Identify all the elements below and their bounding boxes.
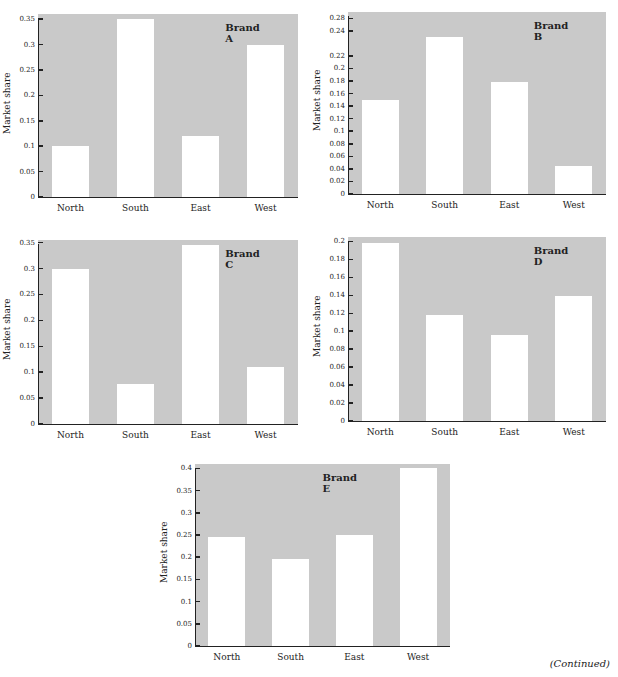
- chart-title: Brand C: [225, 248, 259, 270]
- y-tick: [348, 168, 353, 170]
- y-tick: [38, 242, 43, 244]
- y-tick-label: 0.22: [315, 52, 345, 60]
- y-tick: [348, 118, 353, 120]
- y-axis-label: Market share: [312, 69, 322, 131]
- y-tick-label: 0.1: [5, 368, 35, 376]
- y-axis-label: Market share: [2, 298, 12, 360]
- x-category-label: West: [236, 203, 296, 213]
- y-tick-label: 0.35: [162, 487, 192, 495]
- y-tick-label: 0.3: [162, 509, 192, 517]
- y-tick: [38, 268, 43, 270]
- y-tick: [38, 120, 43, 122]
- x-category-label: South: [261, 652, 321, 662]
- y-tick: [348, 68, 353, 70]
- bar-east: [182, 245, 220, 424]
- y-tick-label: 0: [5, 420, 35, 428]
- y-tick: [348, 80, 353, 82]
- y-tick: [195, 534, 200, 536]
- y-tick: [195, 556, 200, 558]
- y-tick: [348, 156, 353, 158]
- y-tick: [348, 143, 353, 145]
- x-category-label: West: [544, 427, 604, 437]
- y-tick: [38, 371, 43, 373]
- x-category-label: North: [197, 652, 257, 662]
- y-tick: [348, 366, 353, 368]
- y-tick: [348, 402, 353, 404]
- y-tick: [38, 171, 43, 173]
- bar-west: [247, 45, 285, 198]
- x-category-label: North: [350, 427, 410, 437]
- y-tick: [348, 30, 353, 32]
- y-tick: [348, 193, 353, 195]
- y-tick: [38, 69, 43, 71]
- bar-south: [272, 559, 309, 646]
- y-tick: [348, 105, 353, 107]
- bar-north: [52, 146, 90, 197]
- y-tick-label: 0: [315, 190, 345, 198]
- y-tick: [195, 468, 200, 470]
- x-category-label: West: [236, 430, 296, 440]
- y-tick: [38, 320, 43, 322]
- chart-title: Brand B: [534, 20, 568, 42]
- x-category-label: South: [415, 200, 475, 210]
- y-tick-label: 0.05: [5, 168, 35, 176]
- y-tick-label: 0.18: [315, 255, 345, 263]
- x-category-label: North: [41, 430, 101, 440]
- x-axis: [348, 194, 606, 195]
- y-tick-label: 0.02: [315, 399, 345, 407]
- continued-note: (Continued): [550, 658, 610, 669]
- x-axis: [348, 421, 606, 422]
- y-tick-label: 0.04: [315, 165, 345, 173]
- y-tick-label: 0.35: [5, 15, 35, 23]
- y-tick: [195, 601, 200, 603]
- bar-east: [491, 335, 528, 421]
- y-tick-label: 0.06: [315, 152, 345, 160]
- chart-title: Brand E: [323, 472, 357, 494]
- y-tick: [38, 397, 43, 399]
- x-category-label: North: [41, 203, 101, 213]
- x-axis: [38, 424, 298, 425]
- y-tick-label: 0: [5, 193, 35, 201]
- x-category-label: South: [415, 427, 475, 437]
- y-tick: [195, 490, 200, 492]
- x-category-label: West: [544, 200, 604, 210]
- bar-east: [491, 82, 528, 194]
- y-tick: [195, 512, 200, 514]
- x-category-label: South: [106, 203, 166, 213]
- chart-title: Brand A: [225, 22, 259, 44]
- y-tick: [38, 294, 43, 296]
- bar-west: [555, 296, 592, 421]
- y-tick: [38, 423, 43, 425]
- x-category-label: South: [106, 430, 166, 440]
- y-tick: [38, 44, 43, 46]
- y-tick: [348, 18, 353, 20]
- x-category-label: East: [171, 203, 231, 213]
- y-tick: [348, 130, 353, 132]
- y-axis-label: Market share: [312, 295, 322, 357]
- x-axis: [195, 646, 450, 647]
- y-tick-label: 0.4: [162, 464, 192, 472]
- y-tick-label: 0.06: [315, 363, 345, 371]
- y-tick: [195, 623, 200, 625]
- y-tick-label: 0.2: [315, 237, 345, 245]
- y-tick-label: 0.3: [5, 265, 35, 273]
- y-axis-label: Market share: [2, 72, 12, 134]
- y-tick: [348, 420, 353, 422]
- y-tick: [38, 18, 43, 20]
- x-category-label: East: [479, 200, 539, 210]
- y-tick: [348, 277, 353, 279]
- bar-south: [426, 315, 463, 421]
- bar-south: [426, 37, 463, 194]
- x-category-label: North: [350, 200, 410, 210]
- bar-west: [400, 468, 437, 646]
- y-tick-label: 0.05: [5, 394, 35, 402]
- bar-south: [117, 384, 155, 424]
- y-tick-label: 0: [315, 417, 345, 425]
- y-tick: [348, 241, 353, 243]
- y-tick-label: 0.05: [162, 620, 192, 628]
- bar-north: [208, 537, 245, 646]
- y-tick: [38, 196, 43, 198]
- y-tick-label: 0.02: [315, 177, 345, 185]
- y-tick: [348, 93, 353, 95]
- y-tick-label: 0.3: [5, 41, 35, 49]
